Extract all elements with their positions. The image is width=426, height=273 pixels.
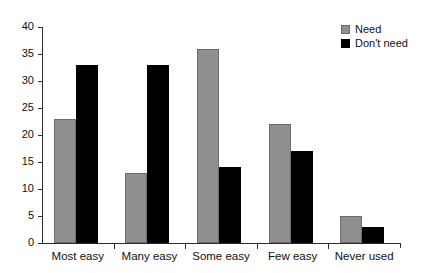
x-axis-category-label: Never used bbox=[328, 250, 400, 263]
y-axis-tick-label: 40 bbox=[8, 21, 34, 32]
bar-dont-need bbox=[147, 65, 169, 243]
y-axis-tick-label: 15 bbox=[8, 156, 34, 167]
x-axis-category-label: Many easy bbox=[114, 250, 186, 263]
y-axis-tick-label: 0 bbox=[8, 237, 34, 248]
bar-need bbox=[340, 216, 362, 243]
x-axis-tick bbox=[328, 244, 329, 249]
x-axis-end-tick bbox=[400, 243, 401, 248]
x-axis-tick bbox=[114, 244, 115, 249]
x-axis-tick bbox=[185, 244, 186, 249]
legend-item-label: Need bbox=[355, 22, 381, 36]
chart-legend: NeedDon't need bbox=[341, 22, 408, 50]
legend-item: Need bbox=[341, 22, 408, 36]
plot-area bbox=[42, 27, 400, 243]
y-axis-tick-label: 35 bbox=[8, 48, 34, 59]
legend-swatch-icon bbox=[341, 39, 350, 48]
x-axis-line bbox=[42, 243, 401, 244]
x-axis-category-label: Few easy bbox=[257, 250, 329, 263]
legend-item: Don't need bbox=[341, 36, 408, 50]
x-axis-category-label: Some easy bbox=[185, 250, 257, 263]
y-axis-tick-label: 30 bbox=[8, 75, 34, 86]
y-axis-tick-label: 5 bbox=[8, 210, 34, 221]
bar-need bbox=[269, 124, 291, 243]
bar-need bbox=[54, 119, 76, 243]
y-axis-tick-label: 20 bbox=[8, 129, 34, 140]
bar-dont-need bbox=[291, 151, 313, 243]
bar-dont-need bbox=[362, 227, 384, 243]
bar-dont-need bbox=[76, 65, 98, 243]
legend-swatch-icon bbox=[341, 25, 350, 34]
y-axis-tick bbox=[38, 243, 43, 244]
bar-need bbox=[197, 49, 219, 243]
y-axis-tick-label: 10 bbox=[8, 183, 34, 194]
bar-chart: 0510152025303540 Most easyMany easySome … bbox=[0, 0, 426, 273]
y-axis-tick-label: 25 bbox=[8, 102, 34, 113]
legend-item-label: Don't need bbox=[355, 36, 408, 50]
x-axis-category-label: Most easy bbox=[42, 250, 114, 263]
bar-need bbox=[125, 173, 147, 243]
bar-dont-need bbox=[219, 167, 241, 243]
x-axis-tick bbox=[257, 244, 258, 249]
